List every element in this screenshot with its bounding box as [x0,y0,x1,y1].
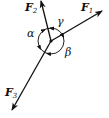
force-diagram: F1 F2 F3 γ α β [0,0,109,118]
label-f3: F3 [4,86,18,100]
vector-f2 [41,1,51,41]
origin-point [49,39,52,42]
arc-arrow-alpha [42,30,45,32]
label-gamma: γ [57,15,64,28]
arc-arrow-beta2 [47,54,50,55]
label-alpha: α [27,27,35,40]
force-diagram-svg: F1 F2 F3 γ α β [0,0,109,118]
arc-arrow-alpha2 [39,46,41,49]
label-f2: F2 [24,1,38,15]
vector-f3 [12,41,51,110]
label-beta: β [64,46,71,59]
label-f1: F1 [80,1,93,15]
